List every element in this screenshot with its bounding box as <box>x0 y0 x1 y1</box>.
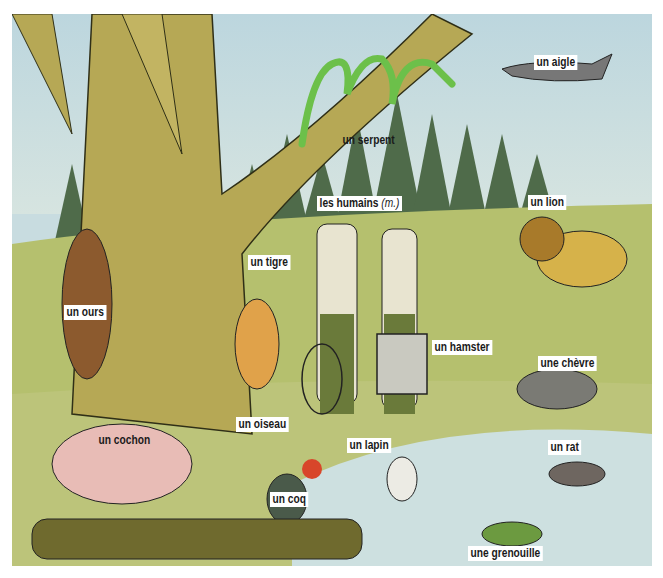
label-humains-note: (m.) <box>381 196 399 210</box>
label-lapin: un lapin <box>347 438 391 453</box>
label-humains-text: les humains <box>320 196 379 210</box>
label-humains: les humains (m.) <box>317 196 402 211</box>
forest-background <box>12 14 652 566</box>
label-tigre: un tigre <box>248 255 291 270</box>
label-lion: un lion <box>528 195 567 210</box>
label-serpent: un serpent <box>340 133 397 148</box>
label-coq: un coq <box>270 492 309 507</box>
label-grenouille: une grenouille <box>468 546 543 561</box>
label-aigle: un aigle <box>534 55 578 70</box>
label-ours: un ours <box>64 305 107 320</box>
label-rat: un rat <box>548 440 581 455</box>
illustration-scene <box>12 14 652 566</box>
label-oiseau: un oiseau <box>236 417 289 432</box>
label-cochon: un cochon <box>96 433 153 448</box>
label-chevre: une chèvre <box>538 356 597 371</box>
label-hamster: un hamster <box>432 340 492 355</box>
